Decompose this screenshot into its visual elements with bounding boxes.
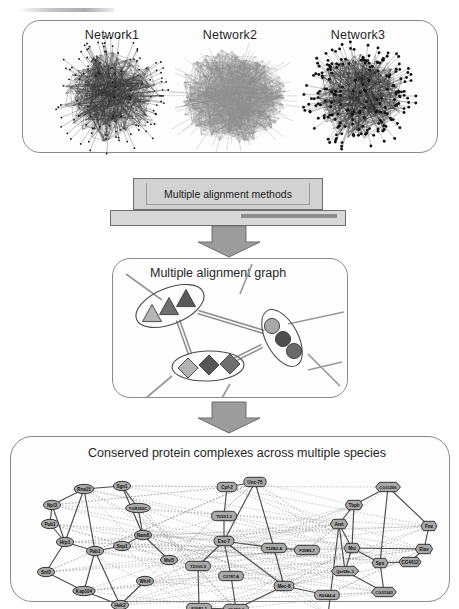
protein-node-label: Elav [419, 547, 429, 552]
protein-node-label: Hrp1 [60, 540, 71, 545]
protein-node-label: Pub1 [44, 522, 56, 527]
protein-node-label: Whi4 [140, 579, 151, 584]
protein-node-label: Msi [348, 546, 356, 551]
network2-label: Network2 [160, 28, 300, 42]
protein-node-label: C2787.A [223, 574, 239, 579]
protein-node-label: CG11266 [379, 485, 397, 490]
protein-node-label: Pab1 [90, 549, 101, 554]
protein-node-label: Exc-7 [218, 539, 231, 544]
network2-hairball [168, 42, 296, 150]
network3-label: Network3 [288, 28, 428, 42]
protein-node-label: CG4612 [401, 560, 419, 565]
protein-node-label: Aret [334, 522, 344, 527]
protein-node-label: Fne [425, 524, 434, 529]
methods-base-slot [241, 214, 337, 218]
protein-node-label: Nam8 [137, 533, 150, 538]
alignment-methods-base [110, 210, 346, 226]
protein-node-label: F25B5.7 [299, 548, 315, 553]
network3-hairball [300, 44, 420, 148]
alignment-methods-label: Multiple alignment methods [164, 188, 292, 200]
protein-node-label: Mec-8 [277, 584, 290, 589]
conserved-complexes-canvas: Rna15Sgn1Npl3YGR250CPub1Nam8Hrp1Pab1Snp1… [12, 462, 448, 600]
protein-node-label: Rna15 [77, 487, 91, 492]
protein-node-label: Snp1 [116, 544, 128, 549]
protein-node-label: CG31243 [375, 590, 393, 595]
protein-node-label: Msl5 [164, 558, 175, 563]
arrow-methods-to-graph [196, 226, 262, 258]
conserved-complexes-title: Conserved protein complexes across multi… [88, 446, 386, 460]
protein-node-label: R06A4.4 [319, 593, 336, 598]
protein-node-label: T22B2.A [266, 546, 282, 551]
protein-node-label: Tbph [348, 503, 359, 508]
protein-node-label: T01D1.2 [216, 514, 232, 519]
protein-node-label: YGR250C [129, 506, 148, 511]
protein-node-label: Sgn1 [116, 484, 128, 489]
alignment-graph-canvas [112, 258, 348, 398]
protein-node-label: T21G5.5 [190, 564, 207, 569]
scan-artifact [18, 8, 114, 12]
protein-node-label: Npl3 [47, 503, 57, 508]
protein-node-label: Spx [376, 561, 385, 566]
protein-node-label: Qkr58e-3 [336, 569, 354, 574]
protein-node-label: Kap104 [76, 589, 93, 594]
protein-node-label: Snf2 [41, 570, 51, 575]
arrow-graph-to-complexes [196, 402, 262, 434]
protein-node-label: Unc-75 [247, 480, 263, 485]
protein-node-label: Hek2 [115, 603, 126, 608]
network1-hairball [52, 44, 172, 148]
alignment-methods-box: Multiple alignment methods [133, 178, 323, 210]
protein-node-label: Cpf-2 [221, 485, 233, 490]
